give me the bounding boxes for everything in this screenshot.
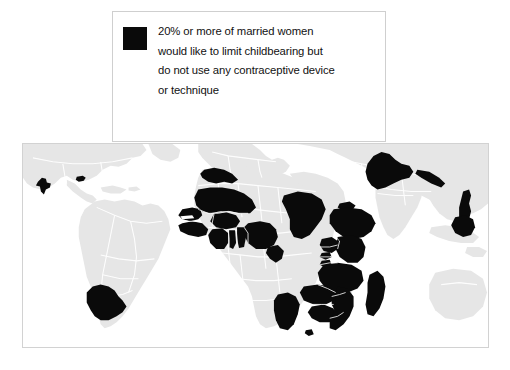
figure-canvas: 20% or more of married women would like …: [0, 0, 510, 370]
map-legend: 20% or more of married women would like …: [112, 11, 386, 142]
world-map-svg: [23, 144, 488, 347]
world-map: [22, 143, 489, 348]
legend-line-1: 20% or more of married women: [158, 22, 378, 42]
legend-line-4: or technique: [158, 81, 378, 101]
legend-line-2: would like to limit childbearing but: [158, 42, 378, 62]
legend-description: 20% or more of married women would like …: [158, 22, 378, 100]
legend-line-3: do not use any contraceptive device: [158, 61, 378, 81]
legend-swatch-black-icon: [123, 27, 147, 50]
